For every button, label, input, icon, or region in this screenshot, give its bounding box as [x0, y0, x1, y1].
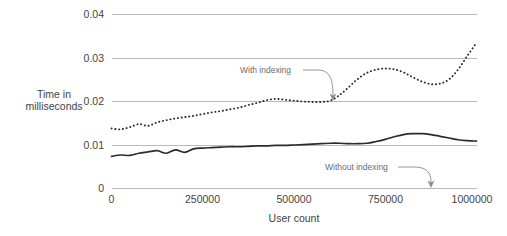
y-tick-label-0: 0 [98, 182, 104, 194]
annotation-label-with-indexing: With indexing [240, 65, 291, 75]
x-tick-label-500000: 500000 [276, 193, 311, 205]
x-axis-tick-labels: 0 250000 500000 750000 1000000 [109, 193, 493, 205]
y-tick-label-0.02: 0.02 [84, 95, 105, 107]
y-axis-tick-labels: 0.04 0.03 0.02 0.01 0 [84, 8, 105, 194]
y-tick-label-0.03: 0.03 [84, 52, 105, 64]
annotation-label-without-indexing: Without indexing [325, 162, 388, 172]
y-tick-label-0.01: 0.01 [84, 139, 105, 151]
annotation-leader-with-indexing [303, 70, 333, 95]
x-tick-label-250000: 250000 [185, 193, 220, 205]
chart-container: 0.04 0.03 0.02 0.01 0 Time in millisecon… [0, 0, 507, 236]
annotation-without-indexing: Without indexing [325, 162, 434, 188]
y-tick-label-0.04: 0.04 [84, 8, 105, 20]
y-axis-title: Time in milliseconds [25, 88, 82, 112]
annotation-leader-without-indexing [398, 167, 431, 182]
x-axis-title: User count [269, 212, 320, 224]
series-line-with-indexing [112, 43, 477, 130]
x-tick-label-1000000: 1000000 [452, 193, 493, 205]
y-axis-title-line-1: Time in [37, 88, 71, 100]
x-tick-label-0: 0 [109, 193, 115, 205]
annotation-with-indexing: With indexing [240, 65, 336, 101]
y-axis-title-line-2: milliseconds [25, 100, 82, 112]
x-tick-label-750000: 750000 [368, 193, 403, 205]
line-chart: 0.04 0.03 0.02 0.01 0 Time in millisecon… [0, 0, 507, 236]
